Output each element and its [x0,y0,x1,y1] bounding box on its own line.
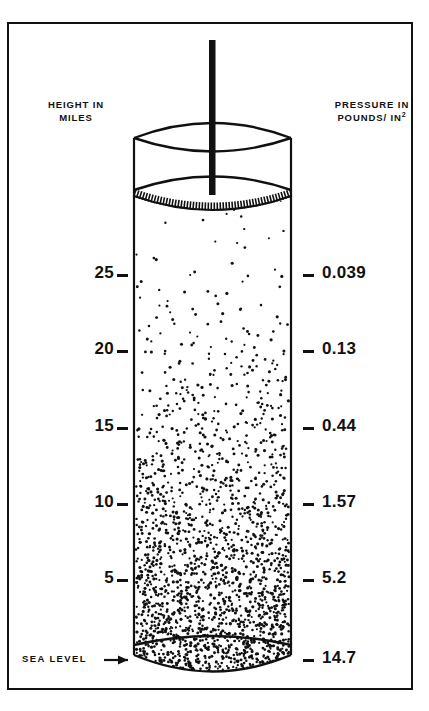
height-axis-title: HEIGHT IN MILES [24,98,128,124]
height-tick-mark [117,579,128,582]
pressure-tick-label: 5.2 [322,568,412,588]
sea-level-label: SEA LEVEL [22,653,87,664]
pressure-tick-mark [303,579,314,582]
piston-rod [209,40,216,195]
pressure-altitude-figure: HEIGHT IN MILES PRESSURE INPOUNDS/ IN2 S… [0,0,429,711]
pressure-tick-label: 0.44 [322,416,412,436]
sea-level-arrow [104,656,128,665]
pressure-axis-title-line1: PRESSURE IN [335,99,409,110]
height-tick-label: 10 [44,492,114,512]
pressure-tick-mark [303,659,314,662]
height-tick-mark [117,274,128,277]
height-tick-label: 25 [44,263,114,283]
height-tick-mark [117,350,128,353]
pressure-axis-title: PRESSURE INPOUNDS/ IN2 [322,98,422,124]
cylinder-walls [134,138,291,655]
air-molecule-dots [135,200,291,688]
height-tick-label: 15 [44,416,114,436]
pressure-tick-mark [303,274,314,277]
pressure-tick-label: 14.7 [322,648,412,668]
pressure-tick-label: 0.13 [322,339,412,359]
height-tick-mark [117,503,128,506]
height-tick-label: 5 [44,568,114,588]
cylinder-bottom [134,636,291,672]
height-tick-mark [117,427,128,430]
height-tick-label: 20 [44,339,114,359]
pressure-tick-mark [303,350,314,353]
pressure-tick-mark [303,503,314,506]
pressure-tick-label: 1.57 [322,492,412,512]
pressure-axis-title-line2: POUNDS/ IN [337,112,401,123]
pressure-tick-mark [303,427,314,430]
pressure-axis-exponent: 2 [402,111,407,118]
pressure-tick-label: 0.039 [322,263,412,283]
